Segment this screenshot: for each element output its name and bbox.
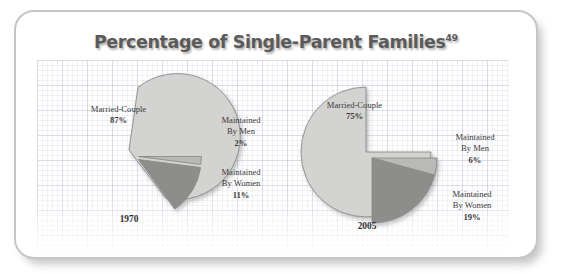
chart-card: Percentage of Single-Parent Families49 <box>14 10 538 259</box>
pie-2005-label-maintained-by-women: Maintained By Women 19% <box>426 189 518 223</box>
pie-2005-label-maintained-by-women-value: 19% <box>426 212 518 223</box>
pie-2005-label-maintained-by-women-name2: By Women <box>426 200 518 211</box>
pie-2005-label-maintained-by-men-name2: By Men <box>433 143 517 154</box>
pie-2005-year-label: 2005 <box>336 221 398 231</box>
single-parent-families-figure: Percentage of Single-Parent Families49 <box>0 0 562 274</box>
pie-2005-label-maintained-by-women-name1: Maintained <box>426 189 518 200</box>
pie-1970-label-maintained-by-men-name2: By Men <box>199 126 283 137</box>
pie-2005-label-maintained-by-men: Maintained By Men 6% <box>433 132 517 166</box>
pie-1970-label-maintained-by-women: Maintained By Women 11% <box>199 167 283 201</box>
pie-1970-slice-maintained-by-women <box>139 160 201 210</box>
pie-2005-label-married-couple-value: 75% <box>302 111 407 122</box>
pie-2005-label-maintained-by-men-name1: Maintained <box>433 132 517 143</box>
pie-2005-label-married-couple: Married-Couple 75% <box>302 100 407 123</box>
pie-1970-label-married-couple-name: Married-Couple <box>66 104 171 115</box>
pie-1970-label-married-couple-value: 87% <box>66 115 171 126</box>
pie-1970-label-maintained-by-men-name1: Maintained <box>199 115 283 126</box>
pie-1970-label-maintained-by-men-value: 2% <box>199 138 283 149</box>
pie-1970-year-label: 1970 <box>98 214 160 224</box>
pie-2005-label-married-couple-name: Married-Couple <box>302 100 407 111</box>
pie-2005-label-maintained-by-men-value: 6% <box>433 155 517 166</box>
pie-1970-label-maintained-by-women-value: 11% <box>199 190 283 201</box>
pie-1970-label-married-couple: Married-Couple 87% <box>66 104 171 127</box>
pie-1970-label-maintained-by-women-name1: Maintained <box>199 167 283 178</box>
pie-1970-label-maintained-by-women-name2: By Women <box>199 178 283 189</box>
pie-1970-label-maintained-by-men: Maintained By Men 2% <box>199 115 283 149</box>
